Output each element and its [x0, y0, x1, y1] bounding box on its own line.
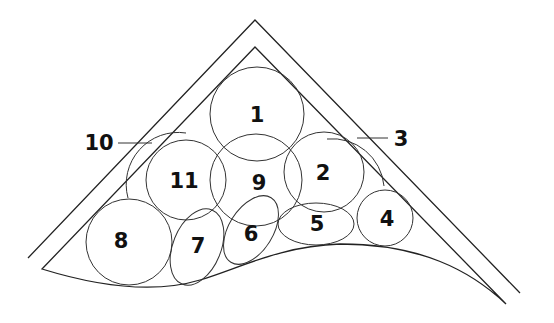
label-4: 4: [380, 207, 395, 231]
label-11: 11: [169, 169, 198, 193]
label-8: 8: [114, 229, 129, 253]
label-3: 3: [394, 127, 409, 151]
label-9: 9: [252, 171, 267, 195]
label-2: 2: [316, 161, 331, 185]
label-6: 6: [244, 222, 259, 246]
circle-3-arc: [327, 139, 384, 186]
circle-8: [86, 199, 172, 285]
label-10: 10: [84, 131, 113, 155]
inner-frame: [42, 47, 506, 304]
label-1: 1: [250, 103, 265, 127]
label-5: 5: [310, 212, 325, 236]
outer-frame: [28, 20, 520, 293]
label-7: 7: [191, 234, 206, 258]
diagram-canvas: 1 2 3 4 5 6 7 8 9 10 11: [0, 0, 554, 323]
packing-diagram: 1 2 3 4 5 6 7 8 9 10 11: [0, 0, 554, 323]
